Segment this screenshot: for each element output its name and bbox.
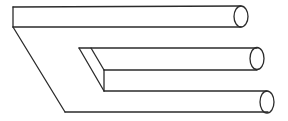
bottom-prong-end-ellipse xyxy=(260,91,274,113)
bottom-prong xyxy=(104,91,274,113)
top-prong xyxy=(13,6,248,27)
blivet-drawing xyxy=(0,0,288,121)
illusion-figure: Impossible trident (blivet) optical illu… xyxy=(0,0,288,121)
middle-prong xyxy=(79,48,264,71)
inner-notch xyxy=(79,48,104,91)
top-prong-end-ellipse xyxy=(234,6,248,27)
middle-prong-end-ellipse xyxy=(250,48,264,70)
